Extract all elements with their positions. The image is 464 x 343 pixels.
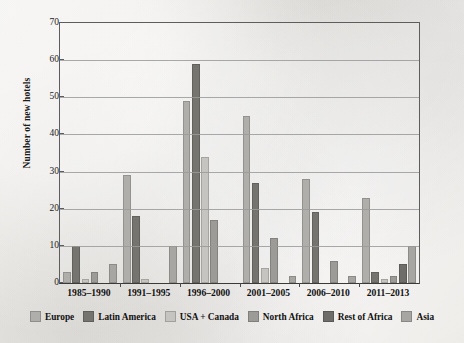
legend-label: Latin America [98,312,156,322]
x-axis-labels: 1985–19901991–19951996–20002001–20052006… [59,287,420,303]
bar [123,175,131,283]
bar [381,279,389,283]
gridline [60,209,419,210]
legend-swatch-icon [165,311,176,322]
bar-group [240,23,300,283]
bar-group [120,23,180,283]
bar [201,157,209,283]
gridline [60,172,419,173]
y-tick-label: 20 [19,203,59,213]
bar [302,179,310,283]
bar [312,212,320,283]
gridline [60,246,419,247]
bar [390,276,398,283]
bar [91,272,99,283]
legend-swatch-icon [323,311,334,322]
legend-item[interactable]: USA + Canada [165,311,239,322]
bar [289,276,297,283]
y-tick-label: 0 [19,277,59,287]
bar [330,261,338,283]
bar [169,246,177,283]
gridline [60,60,419,61]
bar-group [299,23,359,283]
bar-chart: Number of new hotels 010203040506070 198… [0,0,464,343]
bar [243,116,251,283]
legend-item[interactable]: Latin America [83,311,156,322]
legend-swatch-icon [83,311,94,322]
legend-swatch-icon [401,311,412,322]
legend-label: Europe [45,312,74,322]
y-tick-label: 70 [19,17,59,27]
bar [183,101,191,283]
legend-item[interactable]: Rest of Africa [323,311,393,322]
x-tick-label: 2006–2010 [307,287,350,298]
legend-item[interactable]: Europe [30,311,74,322]
bar [261,268,269,283]
bar [63,272,71,283]
bar [141,279,149,283]
legend-item[interactable]: North Africa [248,311,314,322]
x-tick-label: 1985–1990 [67,287,110,298]
bar [371,272,379,283]
bar [348,276,356,283]
legend-label: Asia [416,312,434,322]
chart-legend: EuropeLatin AmericaUSA + CanadaNorth Afr… [0,311,464,322]
y-tick-label: 10 [19,240,59,250]
x-tick-label: 1991–1995 [127,287,170,298]
bar [72,246,80,283]
legend-label: North Africa [263,312,314,322]
y-tick-label: 40 [19,128,59,138]
bar [399,264,407,283]
legend-label: Rest of Africa [338,312,393,322]
bar-group [60,23,120,283]
x-tick-label: 1996–2000 [187,287,230,298]
y-tick-label: 30 [19,166,59,176]
gridline [60,97,419,98]
bar [109,264,117,283]
bar [252,183,260,283]
bar [210,220,218,283]
x-tick-label: 2001–2005 [247,287,290,298]
plot-area [59,22,420,284]
y-axis: 010203040506070 [14,22,59,284]
bar [362,198,370,283]
y-tick-label: 50 [19,91,59,101]
legend-swatch-icon [30,311,41,322]
bar [82,279,90,283]
gridline [60,134,419,135]
bar-group [359,23,419,283]
bar-group [180,23,240,283]
legend-swatch-icon [248,311,259,322]
bars-layer [60,23,419,283]
legend-item[interactable]: Asia [401,311,434,322]
bar [408,246,416,283]
bar [132,216,140,283]
y-tick-label: 60 [19,54,59,64]
x-tick-label: 2011–2013 [367,287,410,298]
legend-label: USA + Canada [180,312,239,322]
